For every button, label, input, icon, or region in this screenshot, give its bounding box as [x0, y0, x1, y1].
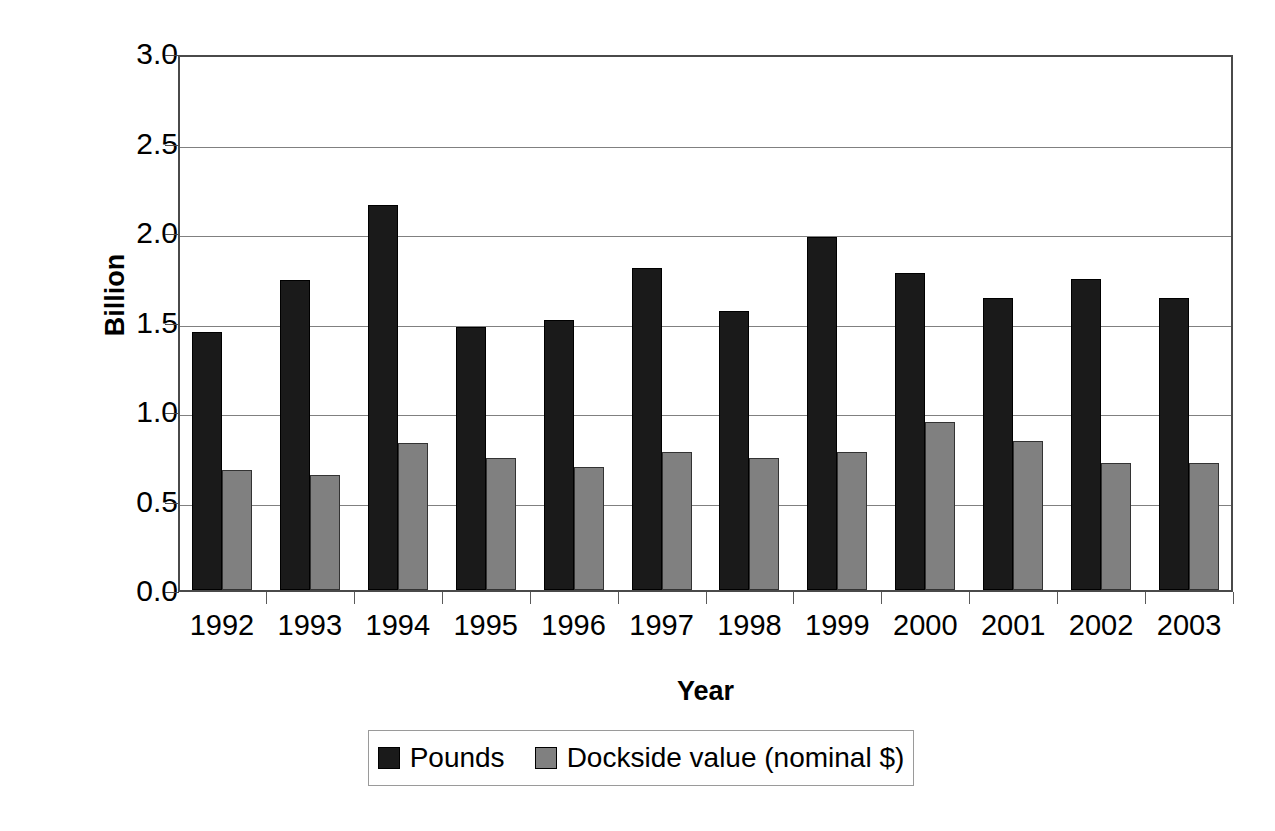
bar-pounds[interactable]	[895, 273, 925, 590]
bar-group	[532, 57, 620, 590]
y-axis-tick-mark	[165, 55, 179, 56]
legend-item-dockside-value[interactable]: Dockside value (nominal $)	[535, 743, 905, 773]
bar-group	[180, 57, 268, 590]
y-axis-tick-mark	[165, 413, 179, 414]
bar-group	[708, 57, 796, 590]
bar-dockside-value[interactable]	[1189, 463, 1219, 590]
bar-chart: Billion 3.02.52.01.51.00.50.0 1992199319…	[0, 0, 1275, 831]
bar-dockside-value[interactable]	[1013, 441, 1043, 590]
bar-pounds[interactable]	[1159, 298, 1189, 590]
x-axis-tick-label: 1996	[530, 608, 618, 642]
x-axis-tick-label: 1997	[618, 608, 706, 642]
x-axis-tick-label: 2003	[1145, 608, 1233, 642]
y-axis-tick-label: 1.0	[88, 397, 178, 427]
bar-pounds[interactable]	[456, 327, 486, 590]
legend-label-pounds: Pounds	[410, 743, 505, 773]
legend: Pounds Dockside value (nominal $)	[368, 730, 914, 786]
x-axis-tick-label: 1995	[442, 608, 530, 642]
y-axis-tick-mark	[165, 234, 179, 235]
y-axis-tick-label: 0.0	[88, 576, 178, 606]
legend-swatch-icon-dockside-value	[535, 747, 557, 769]
y-axis-tick-mark	[165, 145, 179, 146]
bar-group	[444, 57, 532, 590]
y-axis-tick-label: 2.5	[88, 129, 178, 159]
x-axis-tick-label: 1993	[266, 608, 354, 642]
x-axis-tick-label: 2002	[1057, 608, 1145, 642]
bar-dockside-value[interactable]	[398, 443, 428, 590]
x-axis-tick-mark	[618, 592, 619, 604]
bar-pounds[interactable]	[983, 298, 1013, 590]
bar-pounds[interactable]	[1071, 279, 1101, 590]
x-axis-tick-mark	[969, 592, 970, 604]
y-axis-tick-mark	[165, 592, 179, 593]
x-axis-tick-mark	[1145, 592, 1146, 604]
y-axis-tick-mark	[165, 503, 179, 504]
x-axis-tick-label: 2001	[969, 608, 1057, 642]
bar-group	[620, 57, 708, 590]
bar-pounds[interactable]	[280, 280, 310, 590]
bar-group	[883, 57, 971, 590]
bar-dockside-value[interactable]	[662, 452, 692, 590]
y-axis-tick-label: 3.0	[88, 39, 178, 69]
bar-pounds[interactable]	[544, 320, 574, 590]
x-axis-title: Year	[178, 676, 1233, 707]
bar-pounds[interactable]	[807, 237, 837, 590]
x-axis-tick-mark	[706, 592, 707, 604]
x-axis-tick-label: 1992	[178, 608, 266, 642]
x-axis-tick-mark	[442, 592, 443, 604]
bar-group	[268, 57, 356, 590]
x-axis-tick-mark	[354, 592, 355, 604]
legend-item-pounds[interactable]: Pounds	[378, 743, 505, 773]
y-axis-tick: 0.0	[62, 576, 178, 606]
bar-pounds[interactable]	[192, 332, 222, 590]
plot-area	[178, 55, 1233, 592]
y-axis-tick: 2.0	[62, 218, 178, 248]
y-axis-tick-label: 0.5	[88, 487, 178, 517]
y-axis-tick-label: 2.0	[88, 218, 178, 248]
bar-dockside-value[interactable]	[222, 470, 252, 590]
y-axis-tick: 1.0	[62, 397, 178, 427]
y-axis-tick-label: 1.5	[88, 308, 178, 338]
legend-label-dockside-value: Dockside value (nominal $)	[567, 743, 905, 773]
x-axis-tick-mark	[1233, 592, 1234, 604]
y-axis-tick: 1.5	[62, 308, 178, 338]
bar-group	[356, 57, 444, 590]
x-axis-tick-mark	[266, 592, 267, 604]
bar-dockside-value[interactable]	[837, 452, 867, 590]
bar-dockside-value[interactable]	[749, 458, 779, 590]
legend-swatch-icon-pounds	[378, 747, 400, 769]
y-axis-tick-mark	[165, 324, 179, 325]
bar-dockside-value[interactable]	[925, 422, 955, 590]
bar-dockside-value[interactable]	[486, 458, 516, 590]
bar-pounds[interactable]	[632, 268, 662, 590]
y-axis-tick: 2.5	[62, 129, 178, 159]
x-axis-tick-mark	[881, 592, 882, 604]
x-axis-tick-mark	[793, 592, 794, 604]
x-axis-tick-mark	[530, 592, 531, 604]
bar-group	[1147, 57, 1235, 590]
x-axis-tick-label: 1998	[706, 608, 794, 642]
x-axis-tick-label: 1994	[354, 608, 442, 642]
x-axis-tick-label: 1999	[793, 608, 881, 642]
bar-pounds[interactable]	[368, 205, 398, 590]
y-axis-tick: 3.0	[62, 39, 178, 69]
bar-dockside-value[interactable]	[310, 475, 340, 590]
bar-group	[795, 57, 883, 590]
x-axis-tick-mark	[1057, 592, 1058, 604]
x-axis-tick-label: 2000	[881, 608, 969, 642]
bar-group	[1059, 57, 1147, 590]
bar-group	[971, 57, 1059, 590]
y-axis-tick: 0.5	[62, 487, 178, 517]
bar-pounds[interactable]	[719, 311, 749, 590]
bar-dockside-value[interactable]	[1101, 463, 1131, 590]
bar-dockside-value[interactable]	[574, 467, 604, 591]
